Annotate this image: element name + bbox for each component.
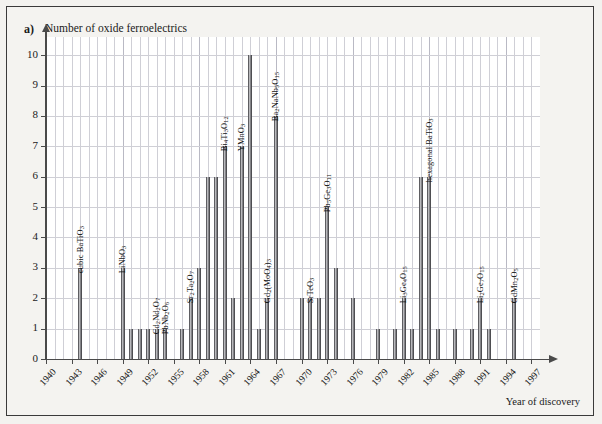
y-tick-mark xyxy=(41,207,46,208)
bar-annotation-label: hexagonal BaTiO3 xyxy=(425,118,434,182)
y-tick-label: 4 xyxy=(18,230,38,242)
y-axis-line xyxy=(45,28,47,360)
y-tick-mark xyxy=(41,298,46,299)
bar xyxy=(376,329,380,359)
y-tick-label: 5 xyxy=(18,200,38,212)
y-tick-label: 10 xyxy=(18,48,38,60)
y-tick-label: 2 xyxy=(18,291,38,303)
bar-annotation-label: Li2Ge7O15 xyxy=(476,266,485,303)
x-tick-mark xyxy=(378,360,379,364)
bar xyxy=(427,177,431,359)
x-axis-line xyxy=(45,359,550,361)
y-tick-mark xyxy=(41,329,46,330)
y-tick-mark xyxy=(41,86,46,87)
bar-annotation-label: Cd2Nd2O7 xyxy=(152,297,161,333)
x-tick-mark xyxy=(225,360,226,364)
x-tick-mark xyxy=(531,360,532,364)
bar xyxy=(180,329,184,359)
bar xyxy=(257,329,261,359)
bar-series: cubic BaTiO3LiNbO3Cd2Nd2O7PbNb2O6Sr2Ta2O… xyxy=(46,37,540,359)
bar xyxy=(129,329,133,359)
x-axis-title: Year of discovery xyxy=(506,396,580,407)
y-tick-mark xyxy=(41,116,46,117)
bar xyxy=(300,298,304,359)
bar xyxy=(351,298,355,359)
y-tick-mark xyxy=(41,268,46,269)
x-tick-mark xyxy=(123,360,124,364)
bar-annotation-label: SrTeO3 xyxy=(305,278,314,304)
bar xyxy=(274,116,278,359)
bar-annotation-label: Li3Ge4O15 xyxy=(399,266,408,303)
bar-annotation-label: cubic BaTiO3 xyxy=(75,226,84,273)
x-tick-mark xyxy=(199,360,200,364)
bar xyxy=(265,298,269,359)
bar-annotation-label: Ba2NaNb5O15 xyxy=(271,72,280,121)
panel-label: a) xyxy=(24,22,34,37)
bar xyxy=(240,146,244,359)
y-tick-label: 1 xyxy=(18,321,38,333)
bar-annotation-label: GdMn2O5 xyxy=(510,268,519,303)
bar xyxy=(478,298,482,359)
x-tick-mark xyxy=(302,360,303,364)
bar-annotation-label: Pb5Ge3O11 xyxy=(322,174,331,212)
bar xyxy=(325,207,329,359)
x-tick-mark xyxy=(353,360,354,364)
bar xyxy=(436,329,440,359)
x-tick-mark xyxy=(46,360,47,364)
bar xyxy=(138,329,142,359)
x-tick-mark xyxy=(429,360,430,364)
y-tick-mark xyxy=(41,146,46,147)
bar xyxy=(419,177,423,359)
y-tick-mark xyxy=(41,177,46,178)
x-tick-mark xyxy=(404,360,405,364)
bar-annotation-label: PbNb2O6 xyxy=(161,302,170,334)
x-tick-mark xyxy=(148,360,149,364)
x-tick-mark xyxy=(480,360,481,364)
bar-annotation-label: Bi4Ti3O12 xyxy=(220,117,229,152)
x-tick-mark xyxy=(174,360,175,364)
figure-panel: a) Number of oxide ferroelectrics cubic … xyxy=(0,0,602,424)
bar-annotation-label: Sr2Ta2O7 xyxy=(186,271,195,303)
x-tick-mark xyxy=(97,360,98,364)
bar-annotation-label: Gd2(MoO4)3 xyxy=(263,259,272,303)
bar xyxy=(470,329,474,359)
x-tick-mark xyxy=(276,360,277,364)
bar-annotation-label: LiNbO3 xyxy=(118,245,127,273)
bar xyxy=(146,329,150,359)
plot-area: cubic BaTiO3LiNbO3Cd2Nd2O7PbNb2O6Sr2Ta2O… xyxy=(46,37,540,359)
y-tick-label: 7 xyxy=(18,139,38,151)
y-axis-title: Number of oxide ferroelectrics xyxy=(45,22,187,34)
y-tick-label: 9 xyxy=(18,78,38,90)
y-tick-mark xyxy=(41,55,46,56)
y-axis-arrow-icon xyxy=(42,24,50,32)
bar xyxy=(334,268,338,359)
bar xyxy=(206,177,210,359)
x-tick-mark xyxy=(327,360,328,364)
bar xyxy=(512,298,516,359)
y-tick-label: 0 xyxy=(18,352,38,364)
x-tick-mark xyxy=(455,360,456,364)
bar-annotation-label: YMnO3 xyxy=(237,124,246,151)
x-tick-mark xyxy=(250,360,251,364)
y-tick-label: 3 xyxy=(18,260,38,272)
bar xyxy=(402,298,406,359)
y-tick-mark xyxy=(41,237,46,238)
y-tick-label: 6 xyxy=(18,169,38,181)
bar xyxy=(121,268,125,359)
bar xyxy=(410,329,414,359)
x-tick-mark xyxy=(72,360,73,364)
bar xyxy=(317,298,321,359)
bar xyxy=(453,329,457,359)
bar xyxy=(214,177,218,359)
bar xyxy=(308,298,312,359)
bar xyxy=(223,146,227,359)
bar xyxy=(189,298,193,359)
bar xyxy=(393,329,397,359)
bar xyxy=(231,298,235,359)
bar xyxy=(487,329,491,359)
bar xyxy=(197,268,201,359)
y-tick-label: 8 xyxy=(18,108,38,120)
x-tick-mark xyxy=(506,360,507,364)
bar xyxy=(248,55,252,359)
x-axis-arrow-icon xyxy=(549,355,558,363)
